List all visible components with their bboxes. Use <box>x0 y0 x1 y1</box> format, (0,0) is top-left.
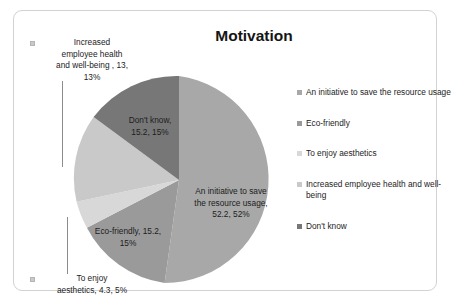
legend-item-initiative[interactable]: An initiative to save the resource usage <box>297 87 452 99</box>
bullet-marker-icon <box>30 41 35 46</box>
chart-title: Motivation <box>164 27 344 45</box>
legend-swatch-icon <box>297 224 302 229</box>
data-label-eco-friendly: Eco-friendly, 15.2, 15% <box>72 226 184 249</box>
data-label-dont-know: Don't know, 15.2, 15% <box>100 115 200 138</box>
legend-item-dont-know[interactable]: Don't know <box>297 221 452 233</box>
legend-swatch-icon <box>297 182 302 187</box>
chart-legend: An initiative to save the resource usage… <box>297 87 452 251</box>
bullet-marker-icon <box>30 277 35 282</box>
legend-item-eco-friendly[interactable]: Eco-friendly <box>297 118 452 130</box>
legend-label: Increased employee health and well-being <box>306 179 452 202</box>
legend-label: An initiative to save the resource usage <box>306 87 451 99</box>
legend-label: Eco-friendly <box>306 118 350 130</box>
chart-frame: Motivation An initiative to save the res… <box>13 10 437 291</box>
legend-label: To enjoy aesthetics <box>306 148 377 160</box>
data-label-initiative: An initiative to save the resource usage… <box>172 186 290 221</box>
legend-item-health[interactable]: Increased employee health and well-being <box>297 179 452 202</box>
legend-item-aesthetics[interactable]: To enjoy aesthetics <box>297 148 452 160</box>
data-label-aesthetics-text: To enjoy aesthetics, 4.3, 5% <box>22 273 148 296</box>
data-label-health: Increased employee health and well-being… <box>22 37 148 83</box>
legend-swatch-icon <box>297 121 302 126</box>
legend-swatch-icon <box>297 151 302 156</box>
pie-svg <box>71 72 287 288</box>
legend-label: Don't know <box>306 221 347 233</box>
data-label-aesthetics: To enjoy aesthetics, 4.3, 5% <box>22 273 148 296</box>
pie-chart <box>71 72 287 288</box>
leader-line-health <box>62 81 63 167</box>
pie-slice-initiative <box>165 76 269 283</box>
data-label-health-text: Increased employee health and well-being… <box>22 37 148 83</box>
legend-swatch-icon <box>297 90 302 95</box>
leader-line-aesthetics <box>67 217 68 274</box>
